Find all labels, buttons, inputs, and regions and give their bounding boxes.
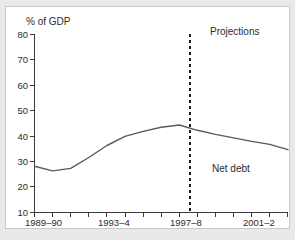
series-line-net-debt — [35, 125, 288, 171]
y-axis-tick-labels: 80 70 60 50 40 30 20 10 — [17, 29, 28, 218]
chart-card: % of GDP 80 70 60 50 4 — [5, 6, 290, 229]
x-axis-tick-labels: 1989–90 1993–4 1997–8 2001–2 — [25, 217, 275, 228]
x-tick-label: 2001–2 — [243, 217, 275, 228]
y-axis-title: % of GDP — [26, 16, 71, 27]
series-label-net-debt: Net debt — [212, 163, 250, 174]
y-tick-label: 50 — [17, 105, 28, 116]
screenshot-root: % of GDP 80 70 60 50 4 — [0, 0, 295, 240]
y-tick-label: 20 — [17, 181, 28, 192]
projections-label: Projections — [210, 26, 259, 37]
y-tick-label: 30 — [17, 156, 28, 167]
y-tick-label: 80 — [17, 29, 28, 40]
net-debt-line-chart: % of GDP 80 70 60 50 4 — [6, 7, 289, 228]
y-tick-label: 70 — [17, 54, 28, 65]
y-axis-ticks — [30, 35, 35, 213]
x-tick-label: 1997–8 — [170, 217, 202, 228]
y-tick-label: 60 — [17, 80, 28, 91]
y-tick-label: 40 — [17, 131, 28, 142]
x-tick-label: 1989–90 — [25, 217, 62, 228]
x-tick-label: 1993–4 — [98, 217, 130, 228]
